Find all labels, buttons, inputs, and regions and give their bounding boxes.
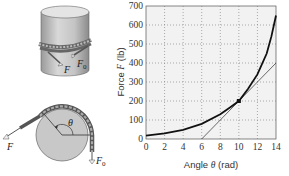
tangent-point-marker (237, 99, 241, 103)
figure-canvas: F F0 θ F F0 0100200300400500600700 02468… (0, 0, 289, 176)
x-tick: 2 (162, 142, 167, 152)
x-tick: 4 (181, 142, 186, 152)
force-angle-chart: 0100200300400500600700 02468101214 Angle… (115, 1, 281, 170)
x-tick: 14 (271, 142, 281, 152)
y-tick: 200 (129, 96, 144, 106)
y-axis-label: Force F (lb) (115, 47, 126, 96)
disk-diagram: θ F F0 (3, 106, 106, 168)
y-tick: 300 (129, 77, 144, 87)
angle-theta-label: θ (68, 117, 73, 128)
x-tick-labels: 02468101214 (144, 142, 281, 152)
y-tick-labels: 0100200300400500600700 (129, 1, 144, 144)
y-tick: 0 (138, 134, 143, 144)
cyl-label-F: F (63, 64, 71, 75)
y-tick: 500 (129, 39, 144, 49)
cylinder-diagram: F F0 (39, 6, 91, 76)
x-tick: 0 (144, 142, 149, 152)
y-tick: 600 (129, 20, 144, 30)
x-tick: 6 (199, 142, 204, 152)
y-tick: 700 (129, 1, 144, 11)
x-tick: 8 (218, 142, 223, 152)
disk-label-F0: F0 (95, 155, 106, 168)
force-arrow-icon (3, 134, 9, 139)
force0-arrow-icon (89, 160, 95, 164)
y-tick: 400 (129, 58, 144, 68)
x-tick: 10 (234, 142, 244, 152)
y-tick: 100 (129, 115, 144, 125)
disk-label-F: F (6, 141, 14, 152)
x-axis-label: Angle θ (rad) (184, 159, 238, 170)
x-tick: 12 (253, 142, 263, 152)
